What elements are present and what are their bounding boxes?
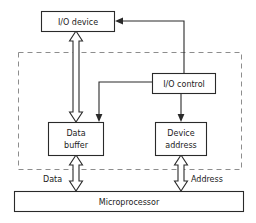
device-address-box <box>156 123 207 156</box>
io-device-data-buffer-bus <box>70 31 83 122</box>
diagram-canvas: I/O device I/O control Data buffer Devic… <box>0 0 256 223</box>
data-buffer-box <box>49 123 104 156</box>
io-control-to-io-device-arrowhead <box>115 18 123 25</box>
data-buffer-cpu-bus <box>70 155 83 191</box>
io-device-label: I/O device <box>58 18 98 27</box>
device-address-label-line2: address <box>165 141 196 150</box>
io-control-to-data-buffer-arrowhead <box>96 114 103 122</box>
address-bus-label: Address <box>191 175 223 184</box>
io-control-to-device-address-arrowhead <box>178 114 185 122</box>
data-buffer-label-line2: buffer <box>64 141 89 150</box>
device-address-label-line1: Device <box>167 129 194 138</box>
io-control-to-data-buffer-line <box>99 82 152 115</box>
io-control-to-io-device-line <box>122 21 184 73</box>
io-control-label: I/O control <box>163 80 205 89</box>
microprocessor-label: Microprocessor <box>99 198 160 207</box>
device-address-cpu-bus <box>175 155 188 191</box>
data-buffer-label-line1: Data <box>66 129 85 138</box>
block-diagram: I/O device I/O control Data buffer Devic… <box>0 0 256 223</box>
data-bus-label: Data <box>43 175 62 184</box>
